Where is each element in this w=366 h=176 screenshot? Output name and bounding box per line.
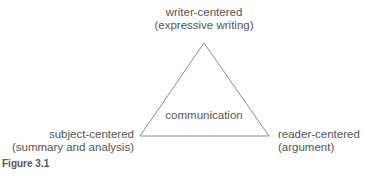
- top-vertex-label: writer-centered (expressive writing): [134, 6, 274, 32]
- top-label-line1: writer-centered: [134, 6, 274, 19]
- figure-caption: Figure 3.1: [2, 158, 49, 169]
- bottom-right-vertex-label: reader-centered (argument): [278, 128, 360, 154]
- bottom-right-label-line2: (argument): [278, 141, 360, 154]
- center-label: communication: [154, 109, 254, 122]
- bottom-right-label-line1: reader-centered: [278, 128, 360, 141]
- bottom-left-vertex-label: subject-centered (summary and analysis): [0, 128, 134, 154]
- bottom-left-label-line2: (summary and analysis): [0, 141, 134, 154]
- bottom-left-label-line1: subject-centered: [0, 128, 134, 141]
- top-label-line2: (expressive writing): [134, 19, 274, 32]
